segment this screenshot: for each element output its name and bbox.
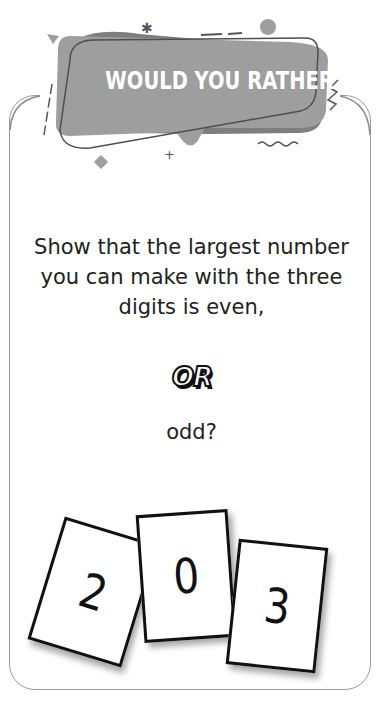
option-b-text: odd? <box>20 420 363 444</box>
asterisk-decoration: ✱ <box>141 20 153 36</box>
circle-decoration <box>260 19 276 35</box>
dash-decoration <box>201 34 222 35</box>
wave-decoration <box>258 142 298 146</box>
option-a-text: Show that the largest number you can mak… <box>20 232 363 322</box>
digit-card-3: 3 <box>226 539 329 674</box>
diamond-decoration <box>94 155 108 169</box>
or-divider: OR <box>150 362 234 392</box>
frame-curve-right <box>330 95 370 135</box>
digit-card-2: 0 <box>136 509 237 643</box>
digit-value: 2 <box>72 561 113 622</box>
frame-curve-left <box>10 95 50 130</box>
plus-decoration: + <box>164 147 175 162</box>
digit-value: 0 <box>171 547 201 605</box>
triangle-decoration <box>47 34 59 44</box>
banner-title: WOULD YOU RATHER <box>105 66 284 95</box>
digit-value: 3 <box>261 577 293 635</box>
